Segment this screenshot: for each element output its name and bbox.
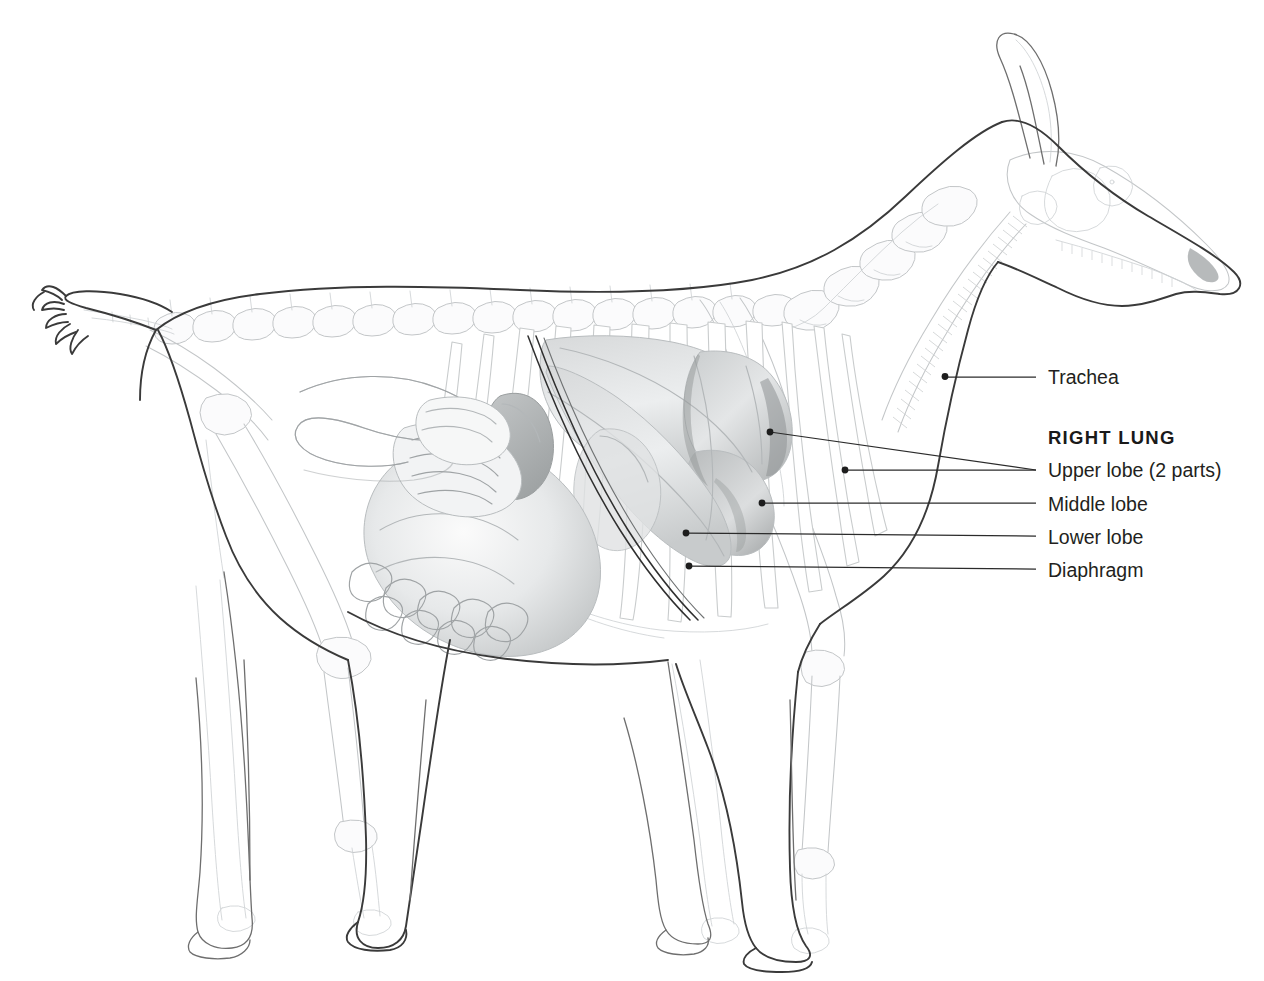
tail-tuft	[33, 286, 88, 354]
label-lower-lobe: Lower lobe	[1048, 526, 1143, 548]
goat-anatomy-svg: Trachea RIGHT LUNG Upper lobe (2 parts) …	[0, 0, 1264, 981]
anchor-dot-middle-lobe	[759, 500, 766, 507]
label-middle-lobe: Middle lobe	[1048, 493, 1148, 515]
anchor-dot-lower-lobe	[683, 530, 690, 537]
body-silhouette	[69, 145, 1238, 962]
anchor-dot-trachea	[942, 373, 949, 380]
label-diaphragm: Diaphragm	[1048, 559, 1143, 581]
label-upper-lobe: Upper lobe (2 parts)	[1048, 459, 1221, 481]
anchor-dot-diaphragm	[686, 563, 693, 570]
heading-right-lung: RIGHT LUNG	[1048, 427, 1176, 448]
callout-trachea: Trachea	[942, 366, 1119, 388]
anchor-dot-upper-lobe-b	[842, 467, 849, 474]
anatomy-figure: Trachea RIGHT LUNG Upper lobe (2 parts) …	[0, 0, 1264, 981]
anchor-dot-upper-lobe-a	[767, 429, 774, 436]
label-trachea: Trachea	[1048, 366, 1119, 388]
